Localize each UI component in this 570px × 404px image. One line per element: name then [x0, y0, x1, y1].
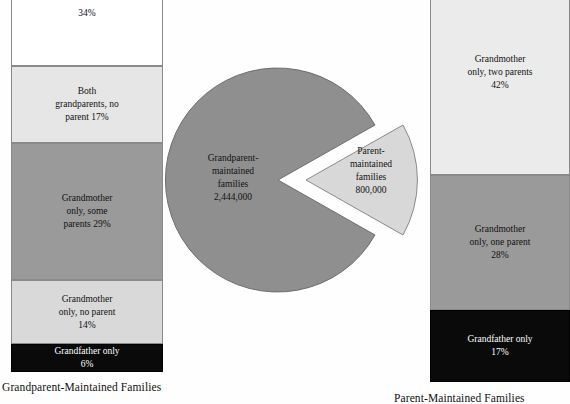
left-bar-segment-both-grandparents-no-parent: Bothgrandparents, noparent 17% [11, 66, 163, 143]
left-bar-segment-label-2: Bothgrandparents, noparent 17% [55, 85, 118, 124]
left-bar-segment-grandmother-no-parent: Grandmotheronly, no parent14% [11, 280, 163, 344]
left-bar-segment-grandmother-both-parents: 34% [11, 0, 163, 66]
pie-chart: Grandparent-maintainedfamilies2,444,000 … [160, 52, 422, 308]
left-bar-segment-label-5: Grandfather only6% [54, 345, 119, 371]
right-bar-segment-label-3: Grandfather only17% [467, 333, 532, 359]
left-bar-segment-label-4: Grandmotheronly, no parent14% [59, 293, 116, 332]
left-bar-segment-label-1: 34% [78, 7, 95, 20]
left-bar-segment-grandfather-only: Grandfather only6% [11, 344, 163, 372]
left-stacked-bar-chart: 34% Bothgrandparents, noparent 17% Grand… [11, 0, 163, 380]
pie-chart-svg [160, 52, 422, 308]
right-bar-segment-grandmother-one-parent: Grandmotheronly, one parent28% [430, 175, 570, 310]
right-stacked-bar-chart: Grandmotheronly, two parents42% Grandmot… [430, 0, 570, 382]
right-bar-segment-label-2: Grandmotheronly, one parent28% [470, 223, 531, 262]
left-bar-segment-grandmother-some-parents: Grandmotheronly, someparents 29% [11, 143, 163, 280]
right-bar-segment-grandfather-only: Grandfather only17% [430, 310, 570, 382]
left-bar-segment-label-3: Grandmotheronly, someparents 29% [62, 192, 113, 231]
left-bar-caption: Grandparent-Maintained Families [2, 381, 161, 393]
right-bar-segment-grandmother-two-parents: Grandmotheronly, two parents42% [430, 0, 570, 175]
right-bar-segment-label-1: Grandmotheronly, two parents42% [467, 53, 532, 92]
right-bar-caption: Parent-Maintained Families [394, 392, 525, 404]
